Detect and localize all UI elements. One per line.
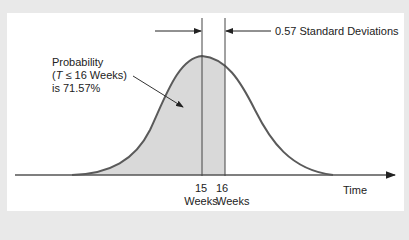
x-axis-label: Time xyxy=(343,184,367,197)
standard-deviations-label: 0.57 Standard Deviations xyxy=(275,25,399,38)
probability-annotation: Probability (T ≤ 16 Weeks) is 71.57% xyxy=(52,56,127,95)
probability-label-line1: Probability xyxy=(52,56,127,69)
probability-label-line2: (T ≤ 16 Weeks) xyxy=(52,69,127,82)
tick-label-16-weeks: 16 Weeks xyxy=(212,182,256,208)
tick-16-value: 16 xyxy=(216,182,256,195)
probability-label-line3: is 71.57% xyxy=(52,82,127,95)
tick-16-unit: Weeks xyxy=(216,195,256,208)
